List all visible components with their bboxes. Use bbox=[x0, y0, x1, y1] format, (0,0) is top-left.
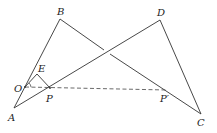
label-p-prime: P′ bbox=[159, 93, 170, 104]
label-e: E bbox=[37, 63, 46, 74]
label-o: O bbox=[14, 83, 22, 94]
label-c: C bbox=[197, 117, 205, 128]
label-d: D bbox=[156, 7, 165, 18]
angle-arc-o bbox=[29, 83, 31, 87]
point-o-dot bbox=[24, 86, 26, 88]
segment-ep bbox=[37, 74, 50, 88]
segment-ad bbox=[14, 20, 160, 108]
label-b: B bbox=[56, 6, 64, 17]
geometry-diagram: A B C D O E P P′ bbox=[0, 0, 217, 133]
label-a: A bbox=[7, 112, 15, 123]
segment-bc-upper bbox=[60, 19, 104, 50]
segment-bc-lower bbox=[110, 54, 201, 114]
label-p: P bbox=[45, 93, 53, 104]
point-p-dot bbox=[49, 87, 51, 89]
